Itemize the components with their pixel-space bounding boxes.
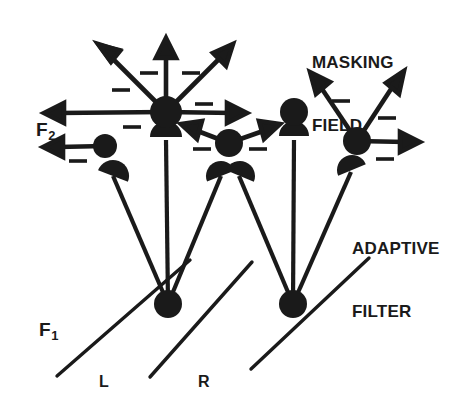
inhib-arrow-b-left xyxy=(44,103,166,123)
f1-layer-label-sub: 1 xyxy=(51,328,58,343)
filter-link-R-c xyxy=(239,176,293,304)
item-label-left: L xyxy=(99,373,109,391)
baseline-segment-2 xyxy=(150,262,252,377)
f1-node-right[interactable] xyxy=(279,290,307,318)
f2-node-d[interactable] xyxy=(280,98,308,126)
adaptive-filter-line-2: FILTER xyxy=(352,301,440,322)
f2-node-b[interactable] xyxy=(150,96,182,128)
adaptive-filter-line-1: ADAPTIVE xyxy=(352,238,440,259)
adaptive-filter-label: ADAPTIVE FILTER xyxy=(352,196,440,364)
f1-layer-label: F1 xyxy=(17,297,58,363)
filter-link-L-a xyxy=(113,176,168,304)
filter-link-R-d xyxy=(293,140,294,304)
filter-link-L-c xyxy=(168,176,221,304)
f1-node-left[interactable] xyxy=(154,290,182,318)
masking-field-line-1: MASKING xyxy=(312,52,394,73)
f2-node-a[interactable] xyxy=(93,134,117,158)
f2-layer-label-base: F xyxy=(36,119,48,140)
f1-node-group xyxy=(154,290,307,318)
baseline-group xyxy=(57,258,369,377)
f2-node-c[interactable] xyxy=(215,129,243,157)
f1-layer-label-base: F xyxy=(39,319,51,340)
filter-link-L-b xyxy=(166,140,168,304)
masking-field-label: MASKING FIELD xyxy=(312,10,394,178)
item-label-right: R xyxy=(198,373,210,391)
filter-terminal-c2 xyxy=(226,156,259,182)
f2-layer-label: F2 xyxy=(14,97,55,163)
figure-root: MASKING FIELD ADAPTIVE FILTER F2 F1 L R xyxy=(0,0,458,410)
f2-layer-label-sub: 2 xyxy=(48,128,55,143)
baseline-segment-1 xyxy=(57,260,190,376)
masking-field-line-2: FIELD xyxy=(312,115,394,136)
